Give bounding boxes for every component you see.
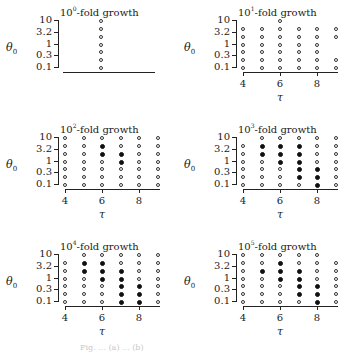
y-tick-label: 10	[204, 132, 230, 142]
y-tick-label: 10	[204, 15, 230, 25]
y-tick-mark	[54, 67, 58, 68]
open-circle-marker	[315, 253, 319, 257]
title-suffix: -fold growth	[255, 241, 317, 252]
filled-circle-marker	[137, 292, 142, 297]
open-circle-marker	[334, 183, 338, 187]
open-circle-marker	[241, 284, 245, 288]
open-circle-marker	[119, 175, 123, 179]
open-circle-marker	[297, 183, 301, 187]
open-circle-marker	[119, 261, 123, 265]
y-tick-label: 0.3	[204, 50, 230, 60]
open-circle-marker	[63, 300, 67, 304]
y-tick-mark	[232, 254, 236, 255]
open-circle-marker	[334, 167, 338, 171]
x-axis-line	[65, 189, 160, 190]
open-circle-marker	[137, 183, 141, 187]
open-circle-marker	[99, 27, 103, 31]
open-circle-marker	[63, 284, 67, 288]
y-tick-label: 0.1	[204, 62, 230, 72]
title-base: 10	[60, 7, 73, 18]
y-tick-mark	[54, 137, 58, 138]
open-circle-marker	[63, 269, 67, 273]
x-axis-label: τ	[277, 91, 283, 104]
filled-circle-marker	[260, 152, 265, 157]
open-circle-marker	[241, 261, 245, 265]
open-circle-marker	[100, 292, 104, 296]
open-circle-marker	[241, 277, 245, 281]
filled-circle-marker	[260, 144, 265, 149]
y-axis-label: θ0	[184, 158, 195, 173]
filled-circle-marker	[278, 261, 283, 266]
open-circle-marker	[334, 144, 338, 148]
x-tick-mark	[280, 306, 281, 310]
y-tick-label: 10	[204, 249, 230, 259]
x-tick-label: 8	[310, 78, 324, 89]
x-tick-mark	[139, 306, 140, 310]
open-circle-marker	[334, 261, 338, 265]
y-tick-label: 10	[26, 132, 52, 142]
y-tick-label: 0.3	[204, 284, 230, 294]
filled-circle-marker	[82, 269, 87, 274]
y-axis-line	[58, 137, 59, 185]
filled-circle-marker	[315, 183, 320, 188]
y-tick-mark	[54, 184, 58, 185]
open-circle-marker	[100, 136, 104, 140]
filled-circle-marker	[278, 144, 283, 149]
open-circle-marker	[297, 136, 301, 140]
open-circle-marker	[241, 43, 245, 47]
open-circle-marker	[315, 136, 319, 140]
y-axis-label-sub: 0	[13, 282, 17, 290]
open-circle-marker	[156, 300, 160, 304]
chart-panel: 100-fold growthθ0103.210.30.1	[0, 3, 178, 115]
x-axis-label: τ	[99, 325, 105, 338]
y-tick-mark	[54, 278, 58, 279]
open-circle-marker	[315, 66, 319, 70]
y-axis-label-sub: 0	[191, 48, 195, 56]
open-circle-marker	[100, 183, 104, 187]
open-circle-marker	[99, 58, 103, 62]
open-circle-marker	[156, 253, 160, 257]
filled-circle-marker	[297, 167, 302, 172]
filled-circle-marker	[100, 269, 105, 274]
title-base: 10	[60, 124, 73, 135]
chart-panel: 103-fold growthθ0103.210.30.1468τ	[178, 120, 356, 232]
title-suffix: -fold growth	[255, 124, 317, 135]
open-circle-marker	[315, 27, 319, 31]
open-circle-marker	[63, 136, 67, 140]
open-circle-marker	[297, 50, 301, 54]
open-circle-marker	[156, 152, 160, 156]
y-axis-label: θ0	[6, 275, 17, 290]
open-circle-marker	[156, 277, 160, 281]
x-tick-mark	[65, 189, 66, 193]
open-circle-marker	[63, 292, 67, 296]
open-circle-marker	[82, 175, 86, 179]
open-circle-marker	[260, 292, 264, 296]
filled-circle-marker	[100, 152, 105, 157]
y-tick-mark	[232, 289, 236, 290]
y-tick-mark	[54, 266, 58, 267]
open-circle-marker	[82, 292, 86, 296]
x-tick-label: 8	[310, 195, 324, 206]
x-tick-mark	[317, 306, 318, 310]
filled-circle-marker	[278, 160, 283, 165]
y-axis-line	[236, 137, 237, 185]
y-tick-mark	[54, 32, 58, 33]
y-tick-mark	[232, 172, 236, 173]
title-exponent: 3	[251, 122, 255, 129]
x-tick-mark	[243, 189, 244, 193]
y-tick-mark	[232, 301, 236, 302]
open-circle-marker	[156, 136, 160, 140]
open-circle-marker	[278, 253, 282, 257]
open-circle-marker	[82, 277, 86, 281]
y-tick-label: 1	[26, 273, 52, 283]
open-circle-marker	[334, 300, 338, 304]
open-circle-marker	[100, 253, 104, 257]
open-circle-marker	[137, 277, 141, 281]
y-axis-line	[236, 20, 237, 68]
open-circle-marker	[260, 136, 264, 140]
x-tick-label: 4	[58, 195, 72, 206]
x-tick-label: 6	[95, 312, 109, 323]
x-tick-label: 6	[273, 78, 287, 89]
y-axis-label-sub: 0	[13, 48, 17, 56]
open-circle-marker	[315, 152, 319, 156]
